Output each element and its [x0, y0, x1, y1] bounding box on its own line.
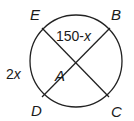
arc-label-ED: 2x [6, 66, 22, 82]
circle-diagram: E B D C A 150-x 2x [0, 0, 134, 121]
point-label-C: C [111, 103, 122, 120]
point-label-D: D [31, 102, 42, 119]
point-label-B: B [111, 6, 121, 23]
point-label-E: E [30, 6, 41, 23]
point-label-A: A [54, 67, 65, 84]
arc-label-EB: 150-x [56, 28, 92, 44]
